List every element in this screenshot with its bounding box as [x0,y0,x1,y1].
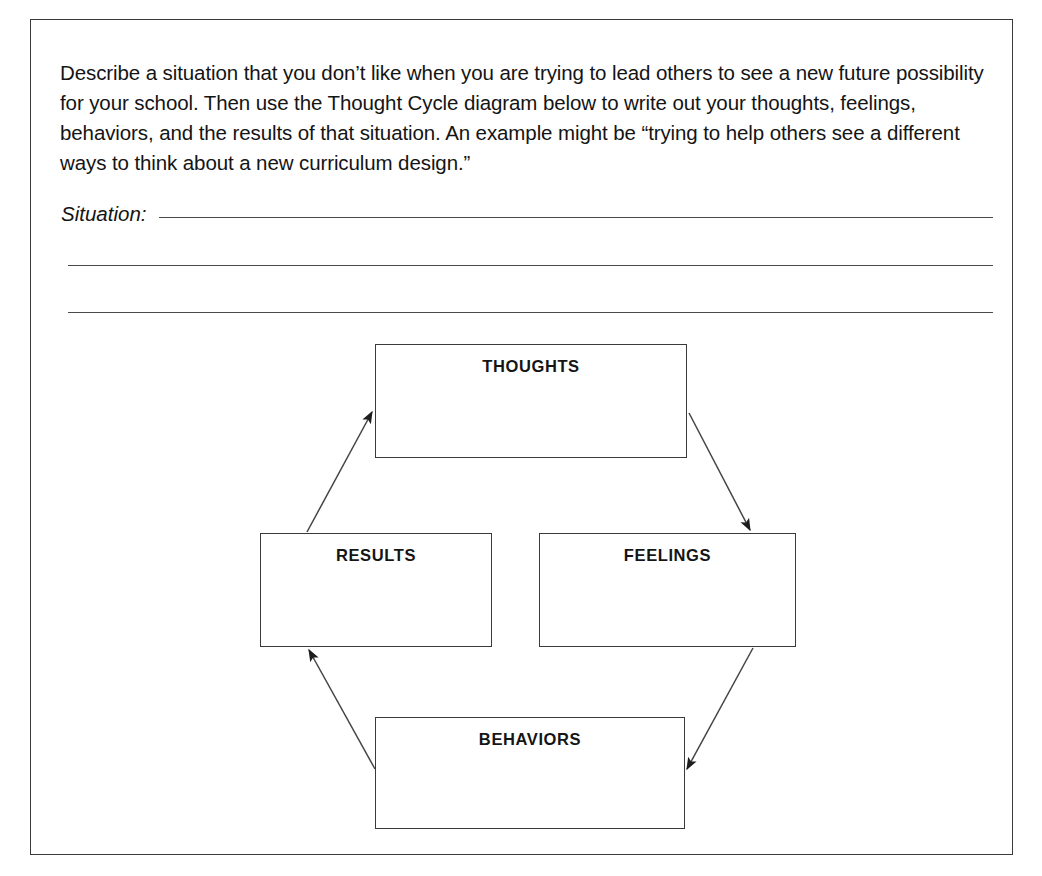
cycle-box-results[interactable]: RESULTS [260,533,492,647]
arrow-results-to-thoughts [307,412,372,532]
arrow-thoughts-to-feelings [689,413,750,530]
cycle-box-thoughts-label: THOUGHTS [376,357,686,376]
thought-cycle-diagram: THOUGHTS RESULTS FEELINGS BEHAVIORS [31,20,1014,856]
arrow-behaviors-to-results [309,650,375,769]
cycle-box-behaviors-label: BEHAVIORS [376,730,684,749]
cycle-box-thoughts[interactable]: THOUGHTS [375,344,687,458]
worksheet-frame: Describe a situation that you don’t like… [30,19,1013,855]
arrow-feelings-to-behaviors [687,648,753,769]
cycle-box-feelings[interactable]: FEELINGS [539,533,796,647]
cycle-box-feelings-label: FEELINGS [540,546,795,565]
cycle-box-results-label: RESULTS [261,546,491,565]
cycle-box-behaviors[interactable]: BEHAVIORS [375,717,685,829]
